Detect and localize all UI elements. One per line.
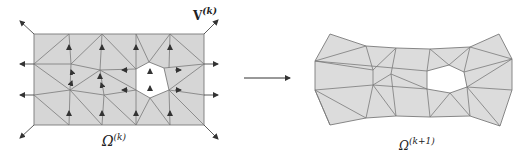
mesh-deformation-diagram [0, 0, 526, 158]
left-mesh [20, 20, 218, 139]
domain-label-right: Ω(k+1) [399, 136, 435, 153]
domain-label-left: Ω(k) [102, 132, 126, 149]
velocity-superscript: (k) [202, 6, 217, 16]
right-mesh [315, 34, 512, 126]
domain-superscript-left: (k) [114, 132, 126, 142]
velocity-symbol: V [193, 9, 202, 23]
domain-superscript-right: (k+1) [409, 136, 435, 146]
domain-symbol-left: Ω [102, 133, 114, 149]
velocity-label: V(k) [193, 6, 217, 23]
domain-symbol-right: Ω [399, 139, 409, 153]
